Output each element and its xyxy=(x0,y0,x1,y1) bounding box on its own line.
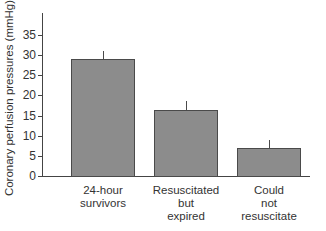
y-tick-label: 15 xyxy=(14,110,36,122)
y-tick xyxy=(38,55,42,56)
bar xyxy=(237,148,301,177)
y-tick xyxy=(38,176,42,177)
y-tick-label: 35 xyxy=(14,29,36,41)
x-category-label-line: Could xyxy=(224,184,314,197)
bar xyxy=(71,59,135,177)
bar xyxy=(154,110,218,177)
x-category-label-line: Resuscitated xyxy=(141,184,231,197)
y-tick-label: 20 xyxy=(14,89,36,101)
y-axis-line xyxy=(42,13,43,177)
x-category-label-line: resuscitate xyxy=(224,210,314,223)
x-category-label-line: survivors xyxy=(58,197,148,210)
y-tick xyxy=(38,116,42,117)
x-category-label-line: not xyxy=(224,197,314,210)
x-category-label: Resuscitatedbutexpired xyxy=(141,184,231,223)
y-tick xyxy=(38,35,42,36)
x-category-label-line: 24-hour xyxy=(58,184,148,197)
x-category-label: 24-hoursurvivors xyxy=(58,184,148,210)
y-tick xyxy=(38,136,42,137)
error-bar xyxy=(269,140,270,148)
y-tick-label: 10 xyxy=(14,130,36,142)
x-category-label-line: but xyxy=(141,197,231,210)
y-tick-label: 30 xyxy=(14,49,36,61)
x-category-label-line: expired xyxy=(141,210,231,223)
error-bar xyxy=(103,51,104,59)
error-bar xyxy=(186,101,187,110)
y-tick xyxy=(38,75,42,76)
y-tick xyxy=(38,95,42,96)
y-tick-label: 0 xyxy=(14,170,36,182)
x-category-label: Couldnotresuscitate xyxy=(224,184,314,223)
y-tick-label: 5 xyxy=(14,150,36,162)
y-tick xyxy=(38,156,42,157)
y-tick-label: 25 xyxy=(14,69,36,81)
